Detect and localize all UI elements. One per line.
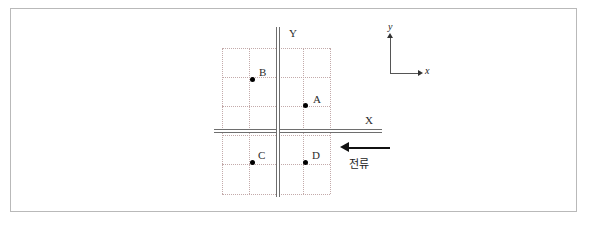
figure-root: Y X A B C D 전류 y x	[0, 0, 591, 227]
legend-y-arrow-icon	[387, 33, 393, 38]
wire-y-label: Y	[289, 28, 297, 39]
grid-line-vertical	[330, 48, 331, 194]
point-label-b: B	[259, 67, 266, 78]
wire-x-label: X	[365, 115, 373, 126]
point-marker-b	[250, 77, 255, 82]
point-label-d: D	[312, 150, 320, 161]
legend-y-label: y	[388, 22, 392, 32]
grid-line-vertical	[222, 48, 223, 194]
point-marker-a	[303, 103, 308, 108]
grid-line-vertical	[303, 48, 304, 194]
diagram-area: Y X A B C D 전류 y x	[0, 0, 591, 227]
axis-legend: y x	[388, 30, 430, 80]
legend-y-axis-line	[390, 38, 391, 74]
point-marker-c	[250, 160, 255, 165]
point-marker-d	[303, 160, 308, 165]
legend-x-arrow-icon	[418, 70, 423, 76]
arrow-shaft	[346, 147, 390, 149]
legend-x-axis-line	[390, 73, 420, 74]
grid-line-vertical	[249, 48, 250, 194]
point-label-c: C	[258, 150, 265, 161]
wire-x	[214, 129, 382, 133]
current-label: 전류	[349, 155, 369, 171]
point-label-a: A	[313, 94, 321, 105]
legend-x-label: x	[425, 66, 429, 76]
wire-y	[276, 27, 280, 197]
current-arrow-group: 전류	[340, 142, 392, 170]
